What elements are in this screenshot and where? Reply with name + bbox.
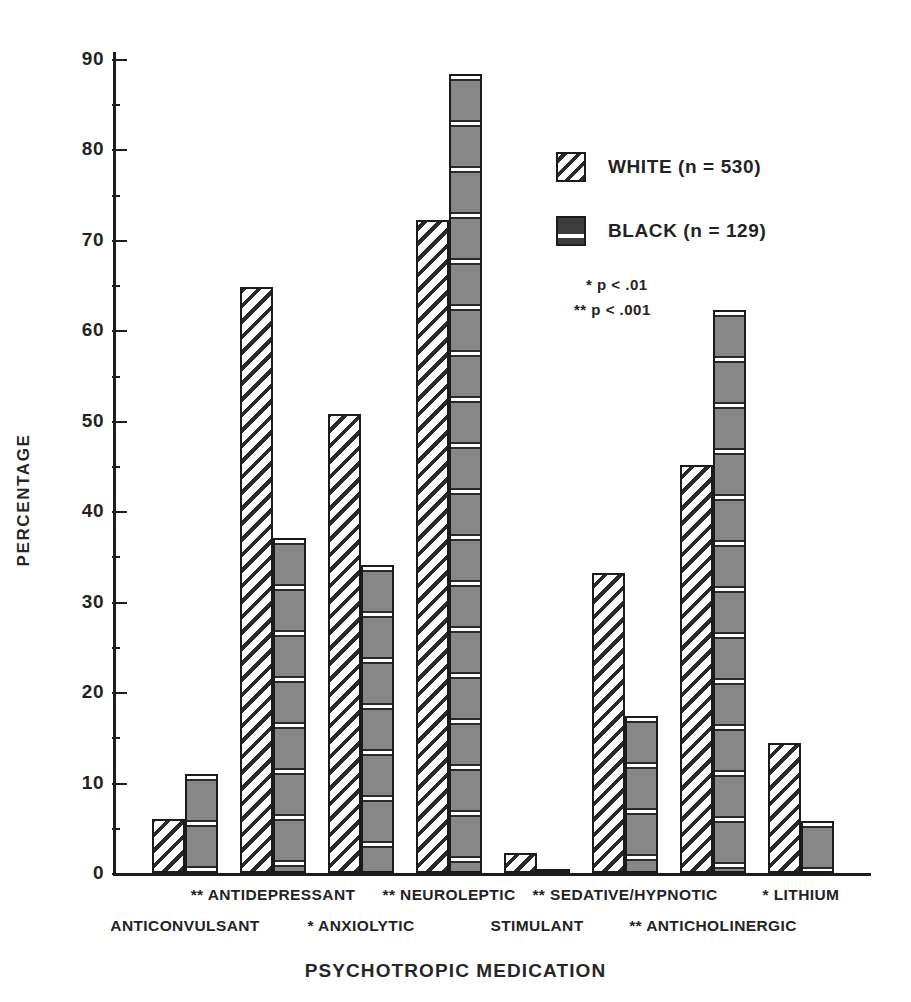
legend-entry-black: BLACK (n = 129) [556, 208, 886, 254]
y-tick-label: 60 [82, 319, 104, 341]
significance-note-p01: * p < .01 [586, 272, 886, 297]
legend-entry-white: WHITE (n = 530) [556, 144, 886, 190]
bar-group [240, 52, 306, 873]
x-axis-label: ** NEUROLEPTIC [382, 886, 515, 904]
bar-black [273, 538, 306, 873]
black-hatch-swatch-icon [556, 216, 586, 246]
y-tick-major [112, 783, 127, 785]
chart-figure: PERCENTAGE 0102030405060708090 WHITE (n … [0, 0, 911, 1002]
y-tick-label: 10 [82, 772, 104, 794]
x-axis-label: ** ANTIDEPRESSANT [191, 886, 356, 904]
x-axis-title: PSYCHOTROPIC MEDICATION [0, 960, 911, 982]
y-tick-label: 70 [82, 229, 104, 251]
y-tick-label: 50 [82, 410, 104, 432]
bar-white [328, 414, 361, 873]
chart-legend: WHITE (n = 530) BLACK (n = 129) * p < .0… [556, 144, 886, 322]
y-tick-label: 40 [82, 500, 104, 522]
y-tick-label: 30 [82, 591, 104, 613]
y-tick-major [112, 59, 127, 61]
y-tick-minor [112, 466, 120, 468]
bar-white [768, 743, 801, 873]
bar-black [801, 821, 834, 873]
y-tick-minor [112, 647, 120, 649]
bar-group [152, 52, 218, 873]
y-tick-major [112, 873, 127, 875]
x-axis-label: STIMULANT [490, 917, 583, 935]
bar-white [416, 220, 449, 873]
y-tick-minor [112, 737, 120, 739]
bar-black [537, 869, 570, 873]
bar-black [361, 565, 394, 873]
y-tick-label: 90 [82, 48, 104, 70]
legend-label-white: WHITE (n = 530) [608, 156, 761, 178]
x-axis-label: ANTICONVULSANT [110, 917, 259, 935]
y-tick-major [112, 692, 127, 694]
significance-note-p001: ** p < .001 [574, 297, 886, 322]
y-tick-minor [112, 195, 120, 197]
bar-black [449, 74, 482, 873]
y-tick-major [112, 421, 127, 423]
y-tick-label: 0 [93, 862, 104, 884]
white-hatch-swatch-icon [556, 152, 586, 182]
y-tick-major [112, 330, 127, 332]
y-tick-minor [112, 828, 120, 830]
y-tick-major [112, 240, 127, 242]
y-tick-minor [112, 556, 120, 558]
x-axis-label: ** SEDATIVE/HYPNOTIC [532, 886, 717, 904]
bar-white [680, 465, 713, 873]
y-tick-minor [112, 376, 120, 378]
bar-white [592, 573, 625, 873]
bar-black [713, 310, 746, 873]
bar-group [328, 52, 394, 873]
legend-label-black: BLACK (n = 129) [608, 220, 766, 242]
bar-white [152, 819, 185, 873]
bar-group [416, 52, 482, 873]
y-tick-major [112, 511, 127, 513]
y-tick-minor [112, 104, 120, 106]
y-tick-minor [112, 285, 120, 287]
y-tick-label: 80 [82, 138, 104, 160]
y-tick-major [112, 602, 127, 604]
x-axis-label: * ANXIOLYTIC [307, 917, 414, 935]
y-tick-label: 20 [82, 681, 104, 703]
bar-white [504, 853, 537, 873]
y-axis-line [113, 52, 116, 876]
x-axis-label: * LITHIUM [763, 886, 840, 904]
bar-white [240, 287, 273, 873]
bar-black [625, 716, 658, 873]
y-tick-major [112, 149, 127, 151]
y-axis-title: PERCENTAGE [14, 380, 44, 620]
x-axis-line [113, 873, 871, 876]
x-axis-label: ** ANTICHOLINERGIC [629, 917, 797, 935]
bar-black [185, 774, 218, 873]
